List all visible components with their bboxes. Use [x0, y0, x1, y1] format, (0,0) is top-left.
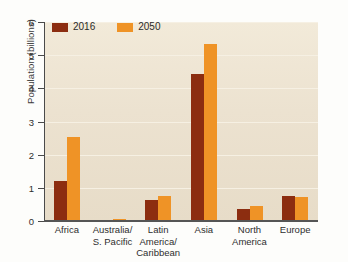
bar-2050-asia [204, 44, 217, 221]
plot-area [44, 22, 318, 221]
x-axis-line [44, 220, 318, 222]
bar-2016-asia [191, 74, 204, 221]
bar-2016-latin-america-caribbean [145, 200, 158, 221]
bar-2016-africa [54, 181, 67, 221]
y-axis-tick-label: 3 [0, 116, 34, 127]
y-axis-tick-label: 2 [0, 149, 34, 160]
legend-swatch-2050 [117, 23, 133, 32]
bar-2050-africa [67, 137, 80, 221]
y-axis-tick [38, 221, 44, 222]
y-axis-tick [38, 22, 44, 23]
legend-swatch-2016 [52, 23, 68, 32]
bar-2050-europe [295, 197, 308, 221]
x-axis-label-europe: Europe [266, 224, 324, 236]
gridline [44, 88, 318, 89]
y-axis-tick-label: 6 [0, 17, 34, 28]
y-axis-tick [38, 188, 44, 189]
gridline [44, 122, 318, 123]
y-axis-tick [38, 55, 44, 56]
bar-chart-figure: Population (billions) 0123456 AfricaAust… [0, 0, 348, 262]
bar-2050-north-america [250, 206, 263, 221]
y-axis-tick-label: 1 [0, 182, 34, 193]
y-axis-tick-label: 5 [0, 50, 34, 61]
y-axis-tick [38, 88, 44, 89]
y-axis-tick [38, 155, 44, 156]
legend-label-2016: 2016 [73, 22, 95, 32]
bar-2016-europe [282, 196, 295, 221]
gridline [44, 188, 318, 189]
gridline [44, 55, 318, 56]
gridline [44, 155, 318, 156]
bar-2050-latin-america-caribbean [158, 196, 171, 221]
legend-label-2050: 2050 [138, 22, 160, 32]
legend-item-2016: 2016 [52, 22, 95, 32]
legend-item-2050: 2050 [117, 22, 160, 32]
y-axis-line [44, 22, 45, 221]
y-axis-tick-label: 0 [0, 216, 34, 227]
chart-legend: 20162050 [52, 22, 161, 32]
y-axis-tick-label: 4 [0, 83, 34, 94]
y-axis-tick [38, 122, 44, 123]
